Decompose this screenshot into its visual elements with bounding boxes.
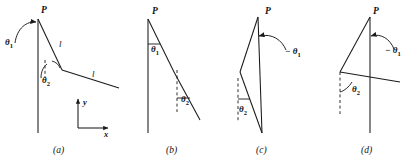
panel-a-length-label-2: l	[92, 70, 95, 79]
panel-d-theta2-label: θ2	[352, 85, 360, 96]
double-pendulum-figure	[0, 0, 410, 166]
panel-a-point-label-P: P	[41, 6, 47, 16]
axis-y-label: y	[83, 98, 87, 107]
panel-b	[148, 19, 200, 133]
panel-d	[340, 17, 400, 133]
panel-d-minus-theta1-label: − θ1	[385, 46, 401, 57]
panel-a-rod-2	[62, 70, 119, 88]
panel-d-point-label-P: P	[373, 7, 379, 17]
panel-b-caption: (b)	[166, 146, 177, 156]
panel-c-theta2-label: θ2	[239, 105, 247, 116]
panel-b-theta1-label: θ1	[151, 45, 159, 56]
panel-c-vertical-reference	[258, 17, 262, 133]
panel-d-theta2-arc	[340, 82, 352, 92]
panel-a-theta1-label: θ1	[5, 38, 13, 49]
panel-c-caption: (c)	[256, 146, 267, 156]
panel-a-caption: (a)	[53, 146, 64, 156]
panel-c-minus-theta1-label: − θ1	[285, 47, 301, 58]
panel-a-theta1-arc	[15, 22, 36, 43]
axis-x-label: x	[104, 130, 108, 139]
panel-c-rod-1	[240, 17, 258, 72]
panel-c-point-label-P: P	[265, 7, 271, 17]
panel-c-theta1-arc	[259, 35, 286, 50]
panel-c-rod-2	[240, 72, 262, 133]
panel-a	[15, 19, 119, 133]
panel-a-theta2-label: θ2	[42, 76, 50, 87]
panel-b-point-label-P: P	[152, 7, 158, 17]
panel-d-rod-1	[340, 17, 370, 72]
panel-a-length-label-1: l	[59, 40, 62, 49]
panel-b-theta2-label: θ2	[181, 95, 189, 106]
panel-d-caption: (d)	[361, 146, 372, 156]
